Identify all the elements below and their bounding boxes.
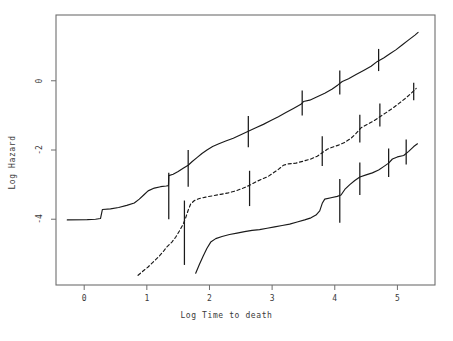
x-tick-label-3: 3: [270, 294, 275, 303]
x-tick-label-2: 2: [207, 294, 212, 303]
y-tick-label-0: 0: [35, 74, 44, 88]
chart-figure: Log Time to death Log Hazard 0123450-2-4: [0, 0, 453, 341]
x-tick-label-4: 4: [332, 294, 337, 303]
x-tick-label-1: 1: [144, 294, 149, 303]
y-tick-label--4: -4: [35, 212, 44, 226]
plot-canvas: [0, 0, 453, 341]
y-tick-label--2: -2: [35, 143, 44, 157]
x-axis-label: Log Time to death: [0, 311, 453, 320]
x-tick-label-5: 5: [395, 294, 400, 303]
y-axis-label: Log Hazard: [8, 113, 17, 213]
x-tick-label-0: 0: [82, 294, 87, 303]
